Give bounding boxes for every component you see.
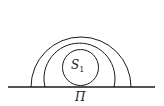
plane-label: Π <box>75 91 85 103</box>
sphere-label: S1 <box>71 59 84 74</box>
sphere-label-subscript: 1 <box>79 65 84 74</box>
sphere-label-letter: S <box>71 58 79 72</box>
